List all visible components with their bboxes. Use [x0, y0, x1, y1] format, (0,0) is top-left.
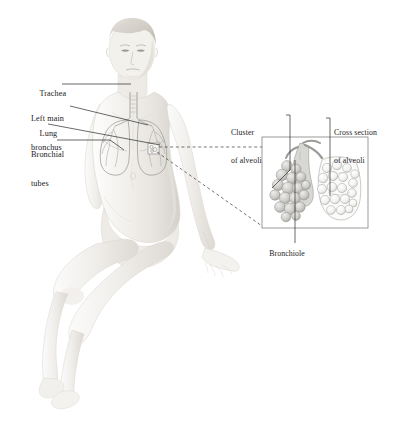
anatomical-illustration — [0, 0, 408, 431]
leader-bronchial-tubes — [57, 140, 124, 150]
label-cross-section-line2: of alveoli — [334, 156, 377, 165]
leader-lung — [48, 124, 160, 145]
leader-left-main-bronchus — [70, 106, 148, 125]
label-cluster-line2: of alveoli — [231, 156, 262, 165]
respiratory-system-figure: Trachea Left main bronchus Lung Bronchia… — [0, 0, 408, 431]
human-figure-illustration — [39, 18, 239, 409]
label-bronchiole-text: Bronchiole — [269, 249, 305, 258]
lung-detail-callout-patch — [148, 143, 159, 154]
bracket-cluster — [286, 115, 290, 120]
label-bronchial-tubes: Bronchial tubes — [31, 131, 64, 208]
label-bronchial-tubes-line2: tubes — [31, 179, 64, 189]
label-bronchiole: Bronchiole — [261, 240, 305, 268]
lungs-overlay — [100, 92, 167, 175]
label-cluster-line1: Cluster — [231, 128, 262, 137]
label-cross-section-of-alveoli: Cross section of alveoli — [334, 110, 377, 184]
alveoli-cluster-solid — [270, 161, 311, 222]
bronchiole-illustration — [286, 141, 322, 206]
label-bronchial-tubes-line1: Bronchial — [31, 150, 64, 160]
leader-cluster-of-alveoli — [272, 120, 290, 188]
label-cross-section-line1: Cross section — [334, 128, 377, 137]
label-cluster-of-alveoli: Cluster of alveoli — [231, 110, 262, 184]
